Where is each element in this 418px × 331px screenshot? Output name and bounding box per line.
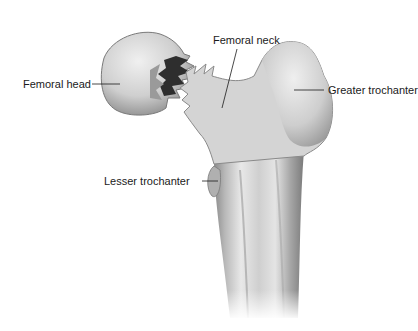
label-femoral-neck: Femoral neck bbox=[213, 34, 280, 46]
label-femoral-head: Femoral head bbox=[23, 78, 91, 90]
label-greater-trochanter: Greater trochanter bbox=[328, 84, 418, 96]
femoral-head-shape bbox=[101, 32, 194, 115]
label-lesser-trochanter: Lesser trochanter bbox=[104, 175, 190, 187]
